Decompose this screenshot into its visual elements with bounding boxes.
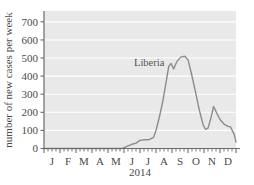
y-tick-label: 100 xyxy=(22,124,39,136)
x-tick-label: J xyxy=(50,155,55,167)
x-tick-label: O xyxy=(192,155,200,167)
plot-area-background xyxy=(44,11,236,148)
y-tick-label: 400 xyxy=(22,70,39,82)
y-tick-label: 600 xyxy=(22,34,39,46)
x-tick-label: M xyxy=(111,155,121,167)
x-tick-label: J xyxy=(130,155,135,167)
y-tick-label: 0 xyxy=(33,142,39,154)
x-tick-label: J xyxy=(146,155,151,167)
x-tick-label: D xyxy=(224,155,232,167)
y-tick-label: 300 xyxy=(22,88,39,100)
x-tick-label: S xyxy=(177,155,183,167)
x-tick-label: A xyxy=(96,155,104,167)
x-tick-label: N xyxy=(208,155,216,167)
y-axis-title: number of new cases per week xyxy=(2,12,14,148)
x-axis-title: 2014 xyxy=(129,166,152,178)
y-tick-label: 200 xyxy=(22,106,39,118)
x-tick-label: A xyxy=(160,155,168,167)
y-tick-label: 500 xyxy=(22,52,39,64)
y-axis-tick-labels: 0100200300400500600700 xyxy=(22,16,39,155)
series-annotation-liberia: Liberia xyxy=(134,57,165,68)
x-tick-label: F xyxy=(65,155,71,167)
x-axis-month-labels: JFMAMJJASOND xyxy=(50,155,232,167)
chart-figure: 0100200300400500600700 JFMAMJJASOND numb… xyxy=(0,0,254,185)
chart-svg: 0100200300400500600700 JFMAMJJASOND numb… xyxy=(0,0,254,185)
x-tick-label: M xyxy=(79,155,89,167)
y-tick-label: 700 xyxy=(22,16,39,28)
